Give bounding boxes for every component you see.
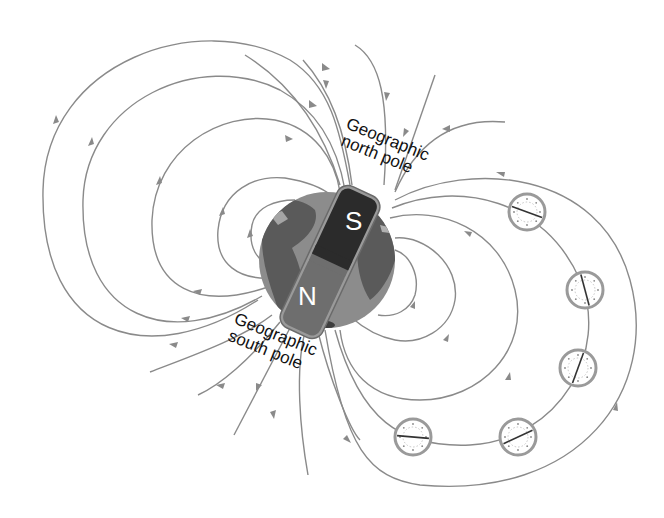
magnet-south-label: S bbox=[345, 206, 362, 236]
compass-icon bbox=[560, 350, 596, 386]
compass-icon bbox=[509, 194, 545, 230]
compass-icon bbox=[500, 419, 536, 455]
field-lines-top bbox=[245, 45, 505, 192]
compass-icon bbox=[567, 272, 603, 308]
magnetic-field-diagram: S N Geographic north pole Geographic sou… bbox=[0, 0, 664, 518]
compass-icon bbox=[395, 419, 431, 455]
magnet-north-label: N bbox=[298, 281, 317, 311]
compass-group bbox=[395, 194, 603, 455]
